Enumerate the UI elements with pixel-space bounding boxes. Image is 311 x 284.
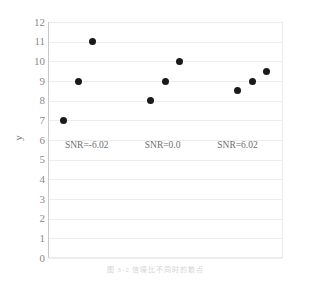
- gridline-y-2: [49, 219, 283, 220]
- y-axis-tick-labels: 1211109876543210: [24, 22, 45, 258]
- data-point: [147, 97, 154, 104]
- data-point: [234, 87, 241, 94]
- gridline-y-5: [49, 160, 283, 161]
- data-point: [249, 78, 256, 85]
- data-point: [263, 68, 270, 75]
- figure-container: y 1211109876543210 SNR=-6.02SNR=0.0SNR=6…: [0, 0, 311, 284]
- snr-annotation: SNR=-6.02: [65, 140, 109, 151]
- y-tick-label-3: 3: [24, 194, 45, 205]
- y-tick-label-2: 2: [24, 213, 45, 224]
- y-tick-label-10: 10: [24, 56, 45, 67]
- data-point: [162, 78, 169, 85]
- figure-caption: 图 3-2 信噪比不同时的散点: [0, 266, 311, 275]
- y-tick-label-6: 6: [24, 135, 45, 146]
- gridline-y-11: [49, 42, 283, 43]
- y-tick-label-12: 12: [24, 17, 45, 28]
- y-tick-label-11: 11: [24, 36, 45, 47]
- y-tick-label-9: 9: [24, 76, 45, 87]
- gridline-y-0: [49, 258, 283, 259]
- gridline-y-8: [49, 101, 283, 102]
- plot-area: SNR=-6.02SNR=0.0SNR=6.02: [48, 22, 283, 258]
- gridline-y-1: [49, 238, 283, 239]
- y-tick-label-7: 7: [24, 115, 45, 126]
- snr-annotation: SNR=0.0: [145, 140, 181, 151]
- y-tick-label-5: 5: [24, 154, 45, 165]
- y-tick-label-1: 1: [24, 233, 45, 244]
- gridline-y-7: [49, 120, 283, 121]
- data-point: [60, 117, 67, 124]
- y-tick-label-4: 4: [24, 174, 45, 185]
- y-tick-label-0: 0: [24, 253, 45, 264]
- y-tick-label-8: 8: [24, 95, 45, 106]
- gridline-y-3: [49, 199, 283, 200]
- snr-annotation: SNR=6.02: [217, 140, 257, 151]
- data-point: [75, 78, 82, 85]
- data-point: [176, 58, 183, 65]
- gridline-y-4: [49, 179, 283, 180]
- gridline-y-10: [49, 61, 283, 62]
- data-point: [89, 38, 96, 45]
